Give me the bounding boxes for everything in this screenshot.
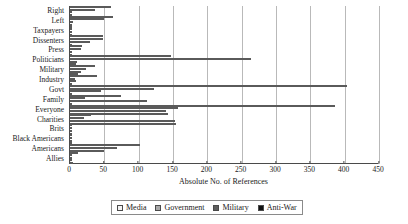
bar: [70, 58, 251, 60]
bar-group: [70, 85, 378, 95]
bar-group: [70, 105, 378, 115]
x-axis-tick-label: 350: [304, 165, 315, 174]
bar: [70, 90, 101, 92]
bar: [70, 157, 72, 159]
bar: [70, 134, 72, 136]
bar: [70, 35, 103, 37]
legend-swatch-icon: [155, 205, 161, 211]
y-axis-label: Right: [47, 7, 64, 15]
bar: [70, 124, 72, 126]
x-axis-tick-mark: [138, 161, 139, 164]
y-axis-label: Press: [48, 46, 64, 54]
y-axis-label: Allies: [46, 155, 64, 163]
bar-group: [70, 154, 378, 164]
x-axis-tick-label: 300: [269, 165, 280, 174]
bar: [70, 100, 147, 102]
x-axis-tick-label: 400: [338, 165, 349, 174]
bar-group: [70, 6, 378, 16]
legend-item-government[interactable]: Government: [155, 203, 204, 212]
legend-swatch-icon: [117, 205, 123, 211]
legend-swatch-icon: [213, 205, 219, 211]
y-axis-label: Americans: [32, 145, 65, 153]
bar-group: [70, 95, 378, 105]
bar: [70, 144, 140, 146]
legend-label: Government: [164, 203, 204, 212]
bar: [70, 78, 75, 80]
bar: [70, 80, 76, 82]
bar: [70, 85, 347, 87]
bar: [70, 48, 81, 50]
x-axis-tick-mark: [344, 161, 345, 164]
x-axis-tick-mark: [378, 161, 379, 164]
bar: [70, 154, 72, 156]
y-axis-label: Govt: [49, 86, 64, 94]
bar: [70, 88, 154, 90]
x-axis-title: Absolute No. of References: [69, 177, 378, 186]
legend-label: Military: [222, 203, 248, 212]
bar: [70, 55, 171, 57]
y-axis-label: Charities: [37, 116, 64, 124]
plot-area: [69, 6, 378, 164]
y-axis-label: Industry: [39, 76, 64, 84]
bar: [70, 71, 81, 73]
bar: [70, 97, 85, 99]
x-axis-tick-mark: [172, 161, 173, 164]
legend-label: Anti-War: [267, 203, 297, 212]
bar: [70, 21, 73, 23]
bar-group: [70, 134, 378, 144]
x-axis-tick-mark: [309, 161, 310, 164]
y-axis-label: Military: [39, 66, 64, 74]
bar: [70, 107, 178, 109]
bar-group: [70, 46, 378, 56]
x-axis-tick-mark: [275, 161, 276, 164]
bar-group: [70, 36, 378, 46]
bar: [70, 117, 84, 119]
bar: [70, 150, 104, 152]
bar-group: [70, 55, 378, 65]
bar: [70, 26, 72, 28]
bar: [70, 28, 72, 30]
y-axis-label: Dissenters: [33, 37, 64, 45]
bar-chart: RightLeftTaxpayersDissentersPressPolitic…: [0, 0, 408, 224]
x-axis-tick-mark: [206, 161, 207, 164]
bar: [70, 105, 335, 107]
x-axis-tick-label: 250: [235, 165, 246, 174]
x-axis-ticks: 050100150200250300350400450: [69, 165, 378, 177]
legend-item-antiwar[interactable]: Anti-War: [258, 203, 297, 212]
x-axis-tick-label: 200: [201, 165, 212, 174]
y-axis-label: Brits: [49, 125, 64, 133]
bar-group: [70, 75, 378, 85]
x-axis-tick-label: 450: [372, 165, 383, 174]
bar: [70, 114, 91, 116]
legend-item-military[interactable]: Military: [213, 203, 248, 212]
bar: [70, 41, 90, 43]
bar: [70, 9, 95, 11]
x-axis-tick-label: 50: [100, 165, 108, 174]
bar: [70, 75, 97, 77]
y-axis-label: Politicians: [32, 56, 64, 64]
x-axis-tick-label: 150: [166, 165, 177, 174]
bar: [70, 159, 72, 161]
legend-item-media[interactable]: Media: [117, 203, 146, 212]
bar: [70, 127, 72, 129]
x-axis-tick-mark: [241, 161, 242, 164]
y-axis-label: Everyone: [35, 106, 64, 114]
gridline: [379, 6, 380, 163]
bar: [70, 147, 117, 149]
bar: [70, 45, 82, 47]
legend-label: Media: [126, 203, 146, 212]
x-axis-tick-mark: [103, 161, 104, 164]
bar: [70, 120, 175, 122]
bar: [70, 65, 95, 67]
bar: [70, 130, 72, 132]
x-axis-tick-label: 0: [67, 165, 71, 174]
bar: [70, 51, 72, 53]
bar: [70, 61, 77, 63]
bar-group: [70, 16, 378, 26]
bar-group: [70, 65, 378, 75]
legend: MediaGovernmentMilitaryAnti-War: [111, 200, 303, 215]
bar: [70, 95, 121, 97]
bar: [70, 68, 86, 70]
bar: [70, 137, 72, 139]
y-axis-labels: RightLeftTaxpayersDissentersPressPolitic…: [0, 6, 67, 164]
